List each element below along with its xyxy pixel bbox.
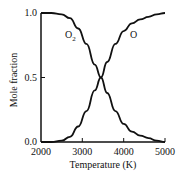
x-axis-title: Temperature (K) <box>70 159 137 171</box>
series-line-o2 <box>41 13 165 142</box>
plot-lines <box>41 13 165 142</box>
y-tick-label: 1.0 <box>25 7 38 18</box>
x-tick-label: 3000 <box>72 146 92 157</box>
x-tick-label: 2000 <box>31 146 51 157</box>
x-tick-label: 5000 <box>155 146 175 157</box>
chart: 1.0 0.5 0.0 2000 3000 4000 5000 Temperat… <box>0 0 188 178</box>
x-tick-label: 4000 <box>114 146 134 157</box>
series-line-o <box>41 13 165 142</box>
y-tick-label: 0.5 <box>25 72 38 83</box>
series-label-o: O <box>130 29 137 40</box>
series-label-o2: O2 <box>65 29 76 43</box>
y-axis-title: Mole fraction <box>8 53 19 108</box>
